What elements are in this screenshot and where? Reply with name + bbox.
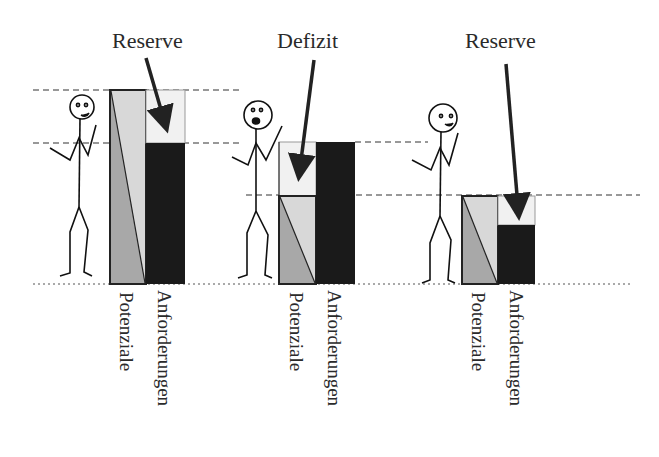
potential-bar: [110, 90, 146, 284]
callout-label-reserve-1: Reserve: [112, 28, 183, 54]
stick-figure-happy: [412, 104, 458, 283]
stick-figure-happy: [50, 95, 96, 276]
bar-label-potenziale-1: Potenziale: [115, 292, 137, 371]
callout-label-defizit: Defizit: [277, 28, 338, 54]
demand-bar: [316, 142, 355, 284]
panel-2: [232, 60, 355, 284]
panel-1: [50, 58, 185, 284]
potential-bar: [462, 196, 498, 284]
bar-label-anforderungen-3: Anforderungen: [505, 290, 527, 406]
bar-label-anforderungen-2: Anforderungen: [323, 290, 345, 406]
panel-3: [412, 64, 535, 284]
bar-label-potenziale-3: Potenziale: [467, 292, 489, 371]
stick-figure-worried: [232, 101, 282, 278]
bar-label-anforderungen-1: Anforderungen: [153, 290, 175, 406]
demand-bar: [498, 196, 535, 284]
bar-label-potenziale-2: Potenziale: [285, 292, 307, 371]
callout-arrow: [506, 64, 518, 207]
potential-bar: [279, 142, 316, 284]
callout-label-reserve-3: Reserve: [465, 28, 536, 54]
